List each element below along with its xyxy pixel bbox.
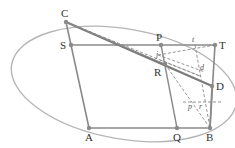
point-B bbox=[208, 126, 212, 130]
line-D-B bbox=[210, 86, 212, 128]
label-C: C bbox=[61, 7, 68, 19]
label-T: T bbox=[219, 39, 226, 51]
label-A: A bbox=[85, 131, 93, 143]
label-P: P bbox=[156, 31, 162, 43]
label-r: r bbox=[199, 102, 203, 111]
point-Q bbox=[175, 126, 179, 130]
point-S bbox=[69, 43, 73, 47]
point-A bbox=[87, 126, 91, 130]
point-C bbox=[64, 20, 68, 24]
dashed-lines bbox=[66, 22, 222, 128]
geometry-diagram: C S P T R D A Q B t j d p r bbox=[0, 0, 235, 148]
label-t: t bbox=[192, 35, 195, 44]
label-Q: Q bbox=[173, 131, 181, 143]
label-S: S bbox=[60, 39, 66, 51]
point-T bbox=[213, 43, 217, 47]
label-d: d bbox=[200, 63, 205, 72]
point-P bbox=[159, 43, 163, 47]
label-p: p bbox=[187, 102, 192, 111]
line-P-Q bbox=[161, 45, 177, 128]
point-D bbox=[210, 84, 214, 88]
label-R: R bbox=[154, 66, 162, 78]
label-B: B bbox=[206, 131, 213, 143]
point-R bbox=[163, 62, 167, 66]
label-D: D bbox=[216, 80, 224, 92]
line-C-A bbox=[66, 22, 89, 128]
